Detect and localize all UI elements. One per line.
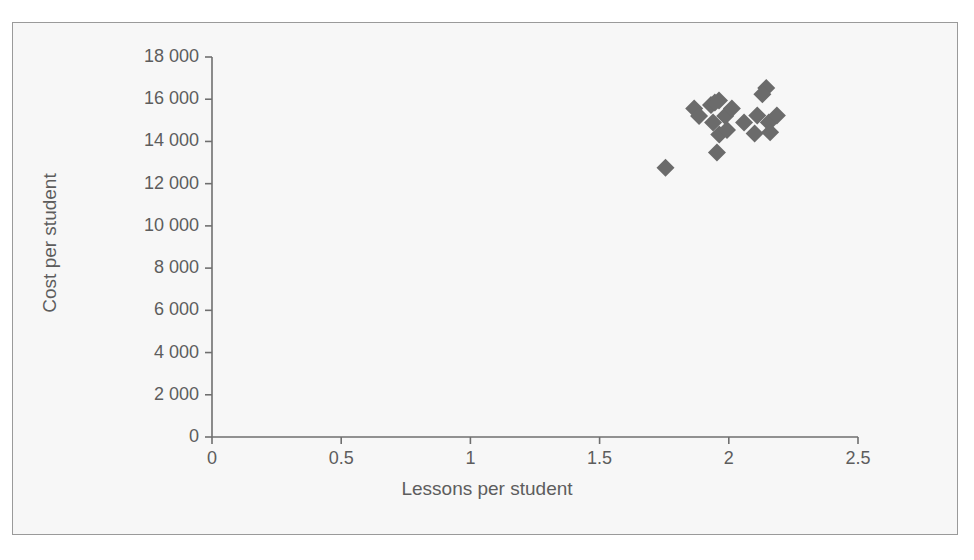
scatter-point — [708, 143, 726, 161]
y-tick-label: 6 000 — [89, 299, 199, 320]
y-tick-label: 16 000 — [89, 88, 199, 109]
x-tick-label: 2.5 — [818, 448, 898, 469]
x-axis-title: Lessons per student — [0, 478, 974, 500]
y-tick-label: 10 000 — [89, 215, 199, 236]
plot-canvas — [0, 0, 974, 560]
y-tick-label: 18 000 — [89, 46, 199, 67]
y-axis-title: Cost per student — [39, 133, 61, 353]
y-tick-label: 8 000 — [89, 257, 199, 278]
scatter-point — [656, 159, 674, 177]
x-tick-label: 2 — [689, 448, 769, 469]
x-tick-label: 1 — [430, 448, 510, 469]
y-tick-label: 12 000 — [89, 173, 199, 194]
y-tick-label: 14 000 — [89, 130, 199, 151]
x-tick-label: 0 — [172, 448, 252, 469]
y-tick-label: 0 — [89, 426, 199, 447]
y-tick-label: 2 000 — [89, 384, 199, 405]
x-tick-label: 1.5 — [560, 448, 640, 469]
y-tick-label: 4 000 — [89, 342, 199, 363]
x-tick-label: 0.5 — [301, 448, 381, 469]
scatter-plot-figure: Lessons per student Cost per student 02 … — [0, 0, 974, 560]
